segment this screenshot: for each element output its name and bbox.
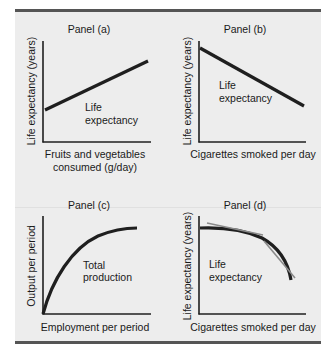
panel-d-x-label: Cigarettes smoked per day: [190, 321, 316, 333]
figure-plots: Panel (a) Life expectancy (years) Life e…: [0, 0, 334, 355]
panel-a-title: Panel (a): [68, 23, 111, 35]
panel-d-y-label: Life expectancy (years): [181, 212, 193, 321]
panel-b-title: Panel (b): [224, 23, 267, 35]
panel-d-title: Panel (d): [224, 199, 267, 211]
panel-c-curve-label-1: Total: [83, 259, 105, 271]
panel-c-curve-label-2: production: [83, 271, 132, 283]
panel-c: Panel (c) Output per period Total produc…: [25, 199, 151, 333]
panel-b-x-label: Cigarettes smoked per day: [190, 148, 316, 160]
panel-b-y-label: Life expectancy (years): [181, 37, 193, 146]
panel-b-curve-label-2: expectancy: [219, 92, 273, 104]
panel-a-x-label-2: consumed (g/day): [53, 161, 137, 173]
panel-d-curve-label-1: Life: [209, 258, 226, 270]
panel-a-curve-label-1: Life: [85, 101, 102, 113]
panel-a-y-label: Life expectancy (years): [25, 37, 37, 146]
panel-d: Panel (d) Life expectancy (years) Life e…: [181, 199, 316, 333]
panel-b-curve-label-1: Life: [219, 79, 236, 91]
panel-c-y-label: Output per period: [25, 225, 37, 307]
panel-a: Panel (a) Life expectancy (years) Life e…: [25, 23, 151, 173]
panel-a-curve-label-2: expectancy: [85, 114, 139, 126]
panel-d-tangent-2: [264, 241, 295, 278]
panel-b: Panel (b) Life expectancy (years) Life e…: [181, 23, 316, 160]
panel-d-curve-label-2: expectancy: [209, 271, 263, 283]
panel-c-title: Panel (c): [68, 199, 110, 211]
panel-c-x-label: Employment per period: [41, 321, 150, 333]
panel-a-x-label-1: Fruits and vegetables: [45, 148, 145, 160]
